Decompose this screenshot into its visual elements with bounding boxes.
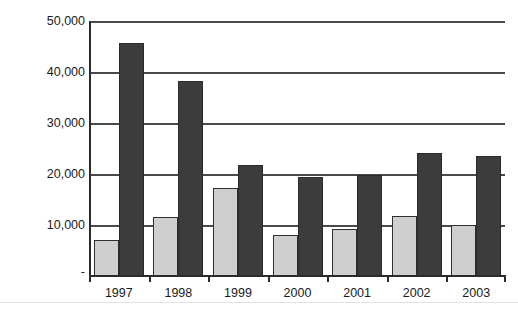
bar-2001-series-2[interactable] bbox=[357, 175, 382, 276]
y-tick-label-50000: 50,000 bbox=[1, 15, 85, 28]
x-axis-tick bbox=[504, 276, 506, 282]
bar-group-1997 bbox=[89, 21, 149, 276]
y-tick-label-20000: 20,000 bbox=[1, 168, 85, 181]
bar-group-2003 bbox=[446, 21, 506, 276]
bar-2003-series-1[interactable] bbox=[451, 225, 476, 276]
x-axis-tick bbox=[268, 276, 270, 282]
x-axis-tick bbox=[149, 276, 151, 282]
bar-group-1999 bbox=[208, 21, 268, 276]
bar-1997-series-2[interactable] bbox=[119, 43, 144, 276]
bar-2002-series-1[interactable] bbox=[392, 216, 417, 276]
x-axis-tick bbox=[327, 276, 329, 282]
bar-group-2000 bbox=[268, 21, 328, 276]
y-tick-label-40000: 40,000 bbox=[1, 66, 85, 79]
bar-1999-series-2[interactable] bbox=[238, 165, 263, 276]
bar-2003-series-2[interactable] bbox=[476, 156, 501, 276]
bar-group-1998 bbox=[149, 21, 209, 276]
bar-2001-series-1[interactable] bbox=[332, 229, 357, 276]
y-axis-labels: 50,000 40,000 30,000 20,000 10,000 - bbox=[0, 0, 85, 312]
x-axis-tick bbox=[89, 276, 91, 282]
x-axis-tick bbox=[446, 276, 448, 282]
bar-group-2001 bbox=[327, 21, 387, 276]
bar-1998-series-1[interactable] bbox=[153, 217, 178, 276]
bar-2000-series-1[interactable] bbox=[273, 235, 298, 276]
y-tick-label-10000: 10,000 bbox=[1, 219, 85, 232]
x-axis-tick bbox=[387, 276, 389, 282]
footer-divider bbox=[0, 302, 518, 303]
bar-2002-series-2[interactable] bbox=[417, 153, 442, 276]
bar-1997-series-1[interactable] bbox=[94, 240, 119, 276]
y-tick-label-0: - bbox=[1, 266, 85, 279]
bar-1998-series-2[interactable] bbox=[178, 81, 203, 276]
bar-chart: 50,000 40,000 30,000 20,000 10,000 - bbox=[0, 0, 518, 312]
bar-group-2002 bbox=[387, 21, 447, 276]
bar-2000-series-2[interactable] bbox=[298, 177, 323, 276]
bar-1999-series-1[interactable] bbox=[213, 188, 238, 276]
y-tick-label-30000: 30,000 bbox=[1, 117, 85, 130]
x-axis-ticks bbox=[89, 276, 506, 282]
x-axis-tick bbox=[208, 276, 210, 282]
bar-groups bbox=[89, 21, 506, 276]
